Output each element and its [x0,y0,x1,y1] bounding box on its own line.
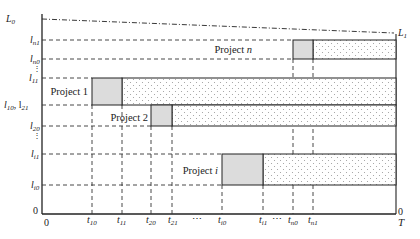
capacity-line-L0-L1 [42,19,394,33]
project-timeline-diagram: Project n Project 1 Project 2 Project i … [0,0,420,239]
svg-text:t20: t20 [146,214,156,227]
svg-text:0: 0 [33,205,38,216]
svg-text:ti1: ti1 [259,214,267,227]
svg-text:0: 0 [44,217,49,228]
svg-text:li1: li1 [31,148,39,161]
project-1-bar [92,78,396,105]
svg-text:ti0: ti0 [218,214,227,227]
svg-text:⋮: ⋮ [33,64,41,73]
svg-text:t10: t10 [87,214,97,227]
svg-text:li0: li0 [31,179,40,192]
svg-text:L0: L0 [5,13,16,26]
svg-text:ln1: ln1 [30,34,40,47]
svg-text:l10, l21: l10, l21 [4,99,29,112]
svg-text:T: T [398,216,405,228]
svg-text:⋮: ⋮ [33,131,41,140]
svg-text:tn1: tn1 [308,214,318,227]
svg-text:l11: l11 [29,72,38,85]
project-2-label: Project 2 [110,112,148,123]
x-axis-labels: 0 t10 t11 t20 t21 ⋯ ti0 ti1 ⋯ tn0 tn1 0 … [44,206,405,228]
project-1-label: Project 1 [50,86,88,97]
y-axis-labels: L0 ln1 ln0 ⋮ l11 l10, l21 l20 ⋮ li1 li0 … [4,13,41,216]
L1-label: L1 [397,27,407,40]
svg-text:t11: t11 [117,214,126,227]
svg-text:t21: t21 [168,214,178,227]
svg-text:⋯: ⋯ [192,213,202,224]
svg-text:tn0: tn0 [288,214,298,227]
project-n-label: Project n [214,44,252,55]
svg-text:⋯: ⋯ [272,213,282,224]
project-i-bar [222,154,396,185]
project-2-bar [151,105,396,126]
project-i-label: Project i [183,165,218,176]
project-n-bar [293,40,396,59]
